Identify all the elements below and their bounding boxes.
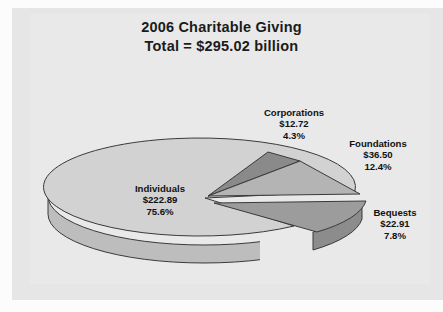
slice-label-corporations-value: $12.72 [253,118,335,129]
slice-label-corporations-percent: 4.3% [253,130,335,141]
slice-label-individuals: Individuals $222.89 75.6% [112,183,208,217]
slice-label-bequests-name: Bequests [359,207,431,218]
chart-title-block: 2006 Charitable Giving Total = $295.02 b… [0,18,443,56]
slice-label-individuals-name: Individuals [112,183,208,194]
chart-title: 2006 Charitable Giving [0,18,443,37]
chart-subtitle: Total = $295.02 billion [0,37,443,56]
slice-label-bequests: Bequests $22.91 7.8% [359,207,431,241]
slice-label-foundations-value: $36.50 [336,149,420,160]
slice-label-bequests-value: $22.91 [359,218,431,229]
slice-label-foundations-name: Foundations [336,138,420,149]
slice-label-foundations: Foundations $36.50 12.4% [336,138,420,172]
slice-label-corporations: Corporations $12.72 4.3% [253,107,335,141]
slice-label-foundations-percent: 12.4% [336,161,420,172]
slice-label-bequests-percent: 7.8% [359,230,431,241]
slice-label-corporations-name: Corporations [253,107,335,118]
chart-canvas: 2006 Charitable Giving Total = $295.02 b… [0,0,443,312]
slice-label-individuals-percent: 75.6% [112,206,208,217]
slice-label-individuals-value: $222.89 [112,194,208,205]
